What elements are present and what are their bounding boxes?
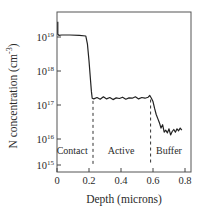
y-tick-label: 1018: [37, 65, 55, 77]
region-label-active: Active: [108, 145, 135, 156]
y-tick-label: 1016: [37, 133, 55, 145]
x-tick-label: 0.4: [114, 175, 128, 186]
x-axis-ticks: 00.20.40.60.8: [54, 168, 191, 186]
y-axis-title: N concentration (cm-3): [5, 43, 20, 148]
y-tick-label: 1019: [37, 31, 55, 43]
region-label-contact: Contact: [57, 145, 88, 156]
y-tick-label: 1015: [37, 159, 55, 171]
concentration-curve: [58, 22, 182, 135]
x-tick-label: 0.2: [82, 175, 95, 186]
y-axis-title-sup: -3: [5, 47, 14, 54]
region-labels: ContactActiveBuffer: [57, 145, 183, 156]
x-tick-label: 0.8: [178, 175, 191, 186]
x-tick-label: 0.6: [146, 175, 159, 186]
region-label-buffer: Buffer: [156, 145, 183, 156]
x-axis-title: Depth (microns): [86, 193, 162, 206]
y-tick-label: 1017: [37, 99, 55, 111]
y-axis-title-close: ): [7, 43, 20, 47]
concentration-depth-chart: 10151016101710181019 00.20.40.60.8 Conta…: [0, 0, 204, 211]
x-tick-label: 0: [54, 175, 59, 186]
y-axis-title-main: N concentration (cm: [7, 54, 20, 149]
